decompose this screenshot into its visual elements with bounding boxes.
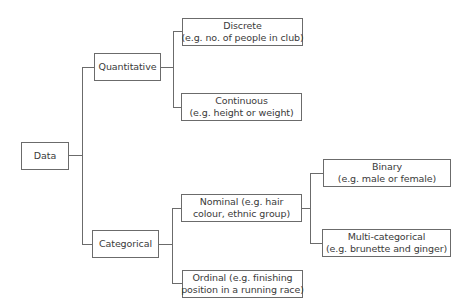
node-categorical: Categorical xyxy=(92,230,159,258)
connector-categorical xyxy=(159,244,172,245)
connector-nominal-trunk xyxy=(310,173,311,244)
node-data: Data xyxy=(21,142,69,170)
connector-nominal xyxy=(302,208,310,209)
connector-to-nominal xyxy=(172,208,181,209)
node-discrete-example: (e.g. no. of people in club) xyxy=(181,32,303,44)
connector-data xyxy=(69,155,82,156)
connector-quantitative-trunk xyxy=(173,31,174,108)
connector-to-multicategorical xyxy=(310,243,322,244)
node-categorical-label: Categorical xyxy=(99,238,152,250)
node-continuous-title: Continuous xyxy=(215,95,268,107)
connector-to-categorical xyxy=(82,244,92,245)
node-data-label: Data xyxy=(34,150,56,162)
node-binary-example: (e.g. male or female) xyxy=(338,173,436,185)
node-binary-title: Binary xyxy=(372,161,402,173)
connector-to-continuous xyxy=(173,107,181,108)
connector-data-trunk xyxy=(82,67,83,245)
node-ordinal-line1: Ordinal (e.g. finishing xyxy=(192,272,292,284)
connector-to-binary xyxy=(310,173,323,174)
node-continuous-example: (e.g. height or weight) xyxy=(189,107,293,119)
node-nominal-line1: Nominal (e.g. hair xyxy=(200,196,284,208)
node-multicategorical-title: Multi-categorical xyxy=(348,231,426,243)
connector-to-quantitative xyxy=(82,67,94,68)
node-binary: Binary (e.g. male or female) xyxy=(323,159,451,187)
node-discrete-title: Discrete xyxy=(223,20,261,32)
node-nominal: Nominal (e.g. hair colour, ethnic group) xyxy=(181,194,302,222)
connector-quantitative xyxy=(160,67,173,68)
node-ordinal: Ordinal (e.g. finishing position in a ru… xyxy=(182,270,303,298)
connector-categorical-trunk xyxy=(172,208,173,284)
node-multicategorical-example: (e.g. brunette and ginger) xyxy=(326,243,447,255)
node-ordinal-line2: position in a running race) xyxy=(181,284,304,296)
node-quantitative-label: Quantitative xyxy=(99,61,157,73)
node-nominal-line2: colour, ethnic group) xyxy=(193,208,290,220)
node-discrete: Discrete (e.g. no. of people in club) xyxy=(182,18,303,46)
node-continuous: Continuous (e.g. height or weight) xyxy=(181,93,302,121)
node-quantitative: Quantitative xyxy=(94,53,161,81)
node-multicategorical: Multi-categorical (e.g. brunette and gin… xyxy=(322,229,451,257)
